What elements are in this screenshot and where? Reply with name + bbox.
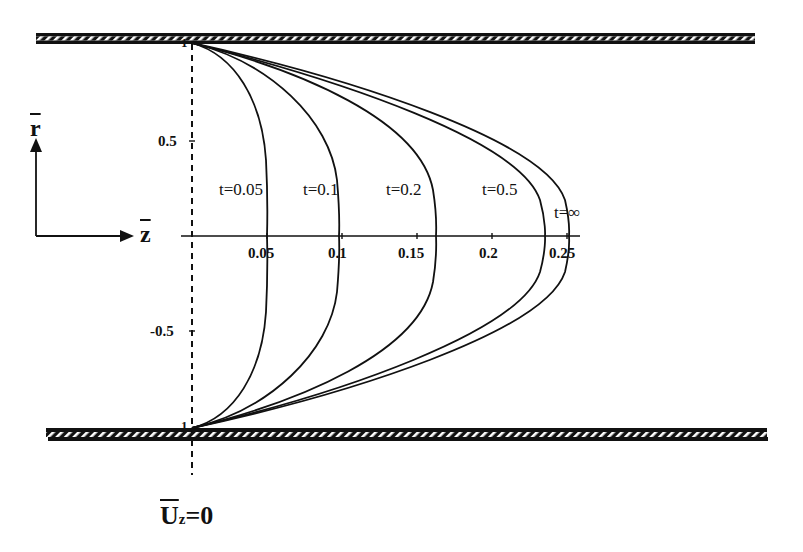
y-tick-label-top: 1 (181, 36, 188, 49)
coordinate-arrows (30, 138, 134, 242)
x-tick-label-0-15: 0.15 (398, 246, 424, 261)
uz-symbol: U (160, 501, 179, 530)
x-tick-label-0-25: 0.25 (549, 246, 575, 261)
y-tick-label-0-5: 0.5 (158, 134, 177, 149)
chart-canvas (0, 0, 803, 552)
x-tick-label-0-2: 0.2 (479, 246, 498, 261)
z-arrow-head-icon (120, 230, 134, 242)
curve-label-t-0-05: t=0.05 (219, 181, 263, 198)
curve-label-t-0-2: t=0.2 (386, 181, 422, 198)
y-tick-label-neg-0-5: -0.5 (150, 324, 174, 339)
uz-value: =0 (185, 501, 213, 530)
bottom-pipe-wall (46, 428, 768, 441)
top-pipe-wall (36, 33, 755, 44)
z-axis-label: z (140, 222, 151, 246)
zero-velocity-label: Uz=0 (160, 503, 213, 529)
curve-label-t-inf: t=∞ (554, 204, 580, 221)
y-tick-label-bottom: 1 (181, 419, 188, 432)
curve-label-t-0-1: t=0.1 (303, 181, 339, 198)
x-tick-label-0-05: 0.05 (248, 246, 274, 261)
x-tick-label-0-1: 0.1 (328, 246, 347, 261)
curve-label-t-0-5: t=0.5 (482, 181, 518, 198)
r-axis-label: r (30, 116, 41, 140)
